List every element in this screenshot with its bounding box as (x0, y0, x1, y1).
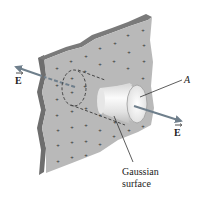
charge-icon: + (56, 142, 60, 148)
charge-icon: + (98, 127, 102, 133)
charge-icon: + (69, 58, 73, 64)
gauss-plane-diagram: + + + + + + + + + + + + + + + + + + + + … (0, 0, 201, 198)
charge-icon: + (112, 58, 116, 64)
charge-icon: + (70, 75, 74, 81)
charge-icon: + (141, 27, 145, 33)
charge-icon: + (55, 96, 59, 102)
charge-icon: + (98, 61, 102, 67)
charge-icon: + (70, 89, 74, 95)
plate-left-edge (37, 55, 46, 175)
charge-icon: + (142, 42, 146, 48)
charge-icon: + (70, 154, 74, 160)
charge-icon: + (98, 141, 102, 147)
svg-text:E: E (15, 75, 22, 86)
charge-icon: + (56, 158, 60, 164)
charge-icon: + (84, 138, 88, 144)
label-gaussian-line1: Gaussian (122, 166, 159, 177)
charge-icon: + (84, 122, 88, 128)
label-gaussian-line2: surface (122, 178, 151, 189)
charge-icon: + (127, 127, 131, 133)
charge-icon: + (112, 133, 116, 139)
gaussian-end-cap-A (127, 85, 147, 123)
charge-icon: + (55, 112, 59, 118)
charge-icon: + (141, 75, 145, 81)
charge-icon: + (84, 105, 88, 111)
charge-icon: + (84, 152, 88, 158)
charge-icon: + (84, 53, 88, 59)
charge-icon: + (55, 65, 59, 71)
label-E-right: E (174, 124, 182, 139)
charge-icon: + (55, 82, 59, 88)
gaussian-cylinder-back-rim (97, 88, 105, 114)
charge-icon: + (70, 139, 74, 145)
svg-text:E: E (174, 127, 181, 138)
charge-icon: + (126, 65, 130, 71)
label-E-left: E (15, 72, 23, 87)
charge-icon: + (113, 40, 117, 46)
charge-icon: + (98, 45, 102, 51)
charge-icon: + (141, 123, 145, 129)
charge-icon: + (56, 127, 60, 133)
label-A: A (183, 74, 191, 85)
charge-icon: + (126, 32, 130, 38)
charge-icon: + (142, 58, 146, 64)
charge-icon: + (70, 124, 74, 130)
charge-icon: + (70, 108, 74, 114)
charge-icon: + (127, 49, 131, 55)
